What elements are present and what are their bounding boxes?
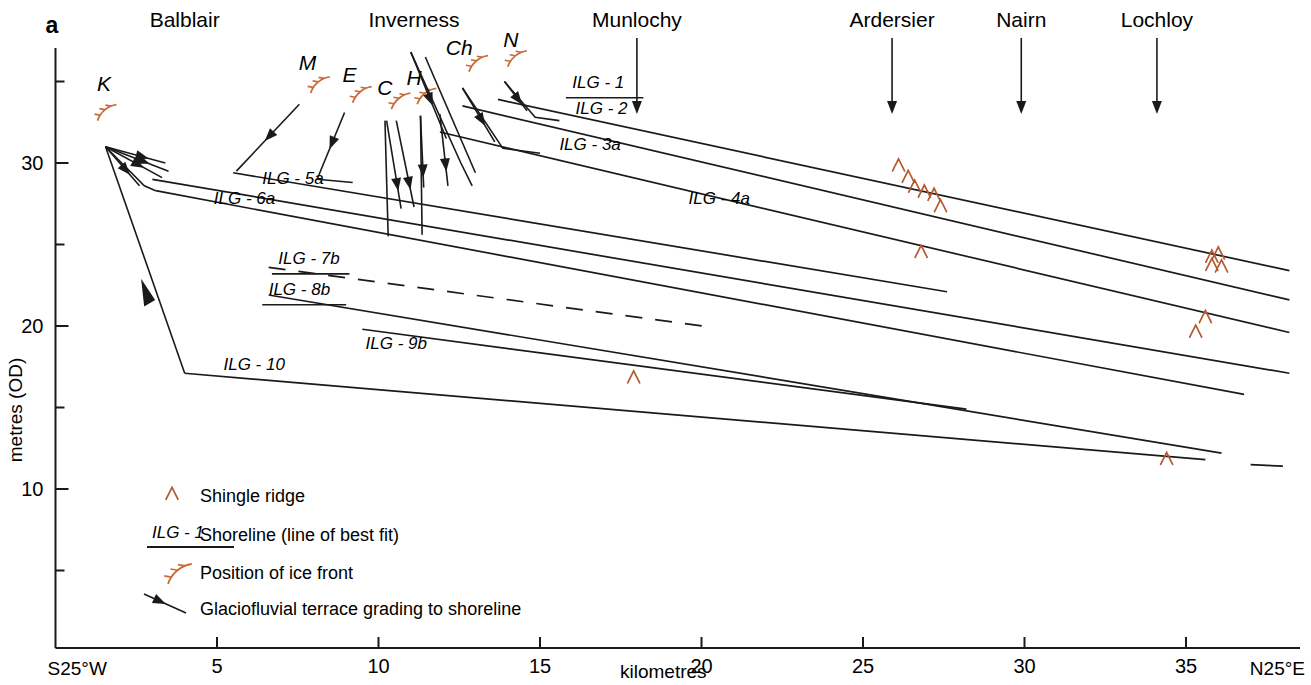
legend-ice-front-label: Position of ice front (200, 563, 353, 583)
ice-front-label-c: C (377, 76, 393, 99)
x-axis-start-label: S25°W (48, 658, 107, 679)
ice-front-barb (414, 98, 420, 99)
y-tick-label: 30 (21, 152, 43, 174)
ice-front-barb (178, 565, 185, 566)
legend-shingle-ridge-icon (166, 487, 178, 499)
arrow-head (887, 101, 897, 114)
chevron (935, 200, 947, 212)
ice-front-e (350, 87, 372, 103)
ice-front-barb (94, 114, 100, 115)
terrace-k-2 (106, 147, 169, 171)
terrace-line (106, 147, 169, 171)
arrow-head (632, 101, 642, 114)
shingle-ridge-marker (628, 371, 640, 383)
y-tick-label: 20 (21, 315, 43, 337)
legend-shoreline-label: Shoreline (line of best fit) (200, 525, 399, 545)
ice-front-barb (466, 65, 472, 66)
ice-front-label-k: K (97, 72, 112, 95)
shoreline-ilg4a (152, 179, 1289, 373)
y-tick-label: 10 (21, 478, 43, 500)
ice-front-barb (350, 96, 356, 97)
arrow-head (1016, 101, 1026, 114)
shingle-ridge-marker (902, 170, 914, 182)
terrace-inv-3 (425, 57, 475, 173)
location-label-inverness: Inverness (369, 8, 460, 31)
location-arrow-nairn (1016, 38, 1026, 114)
terrace-arrowhead (418, 164, 428, 177)
terrace-n-2 (504, 82, 559, 121)
x-tick-label: 25 (852, 655, 874, 677)
ice-front-arc (508, 51, 527, 67)
panel-label: a (46, 12, 59, 38)
ice-front-barb (388, 103, 394, 104)
y-axis-title: metres (OD) (5, 358, 26, 463)
location-arrow-lochloy (1152, 38, 1162, 114)
x-tick-label: 30 (1013, 655, 1035, 677)
legend-shoreline-sample-label: ILG - 1 (152, 523, 204, 542)
shoreline-label-6: ILG - 7b (278, 249, 339, 268)
ice-front-barb (319, 77, 325, 78)
ice-front-barb (171, 569, 178, 570)
x-tick-label: 5 (211, 655, 222, 677)
ice-front-label-e: E (342, 63, 357, 86)
shoreline-label-0: ILG - 1 (572, 73, 624, 92)
shoreline-label-7: ILG - 8b (269, 280, 330, 299)
shoreline-ilg1 (498, 99, 1289, 270)
legend-terrace-arrow-icon (144, 594, 186, 613)
ice-front-barb (105, 105, 111, 106)
chevron (902, 170, 914, 182)
terrace-arrowhead (440, 158, 450, 171)
terrace-h-1 (418, 116, 428, 188)
ice-front-arc (168, 564, 192, 584)
legend-terrace-arrow-label: Glaciofluvial terrace grading to shoreli… (200, 599, 521, 619)
shoreline-ilg10-tail (1251, 465, 1283, 467)
ice-front-barb (308, 86, 314, 87)
ice-front-m (308, 77, 330, 93)
shoreline-label-1: ILG - 2 (576, 99, 629, 118)
shingle-ridge-marker (1161, 452, 1173, 464)
x-tick-label: 15 (529, 655, 551, 677)
ice-front-arc (391, 93, 410, 109)
chevron (628, 371, 640, 383)
chevron (1161, 452, 1173, 464)
ice-front-barb (399, 94, 405, 95)
shingle-ridge-marker (1190, 325, 1202, 337)
shoreline-diagram: 3020105101520253035S25°WN25°Ekilometresm… (0, 0, 1311, 685)
ice-front-barb (393, 97, 399, 98)
x-tick-label: 35 (1175, 655, 1197, 677)
location-label-munlochy: Munlochy (592, 8, 682, 31)
terrace-m (236, 104, 299, 171)
chevron (166, 487, 178, 499)
ice-front-barb (355, 91, 361, 92)
ice-front-barb (477, 56, 483, 57)
terrace-arrowhead (329, 135, 339, 149)
legend (144, 487, 234, 613)
ice-front-label-h: H (406, 66, 422, 89)
shoreline-ilg7b (269, 267, 715, 327)
terrace-k-long (106, 147, 185, 374)
terrace-arrowhead (152, 594, 166, 604)
terrace-e (317, 112, 344, 179)
figure-panel: 3020105101520253035S25°WN25°Ekilometresm… (0, 0, 1311, 685)
terrace-arrowhead (391, 177, 401, 191)
shoreline-ilg8b (269, 295, 1222, 453)
spacer (753, 333, 1283, 405)
legend-shingle-ridge-label: Shingle ridge (200, 486, 305, 506)
ice-front-label-m: M (299, 51, 317, 74)
ice-front-barb (164, 576, 171, 577)
ice-front-arc (353, 87, 372, 103)
shoreline-label-8: ILG - 9b (366, 334, 427, 353)
shoreline-label-5: ILG - 6a (214, 189, 275, 208)
shoreline-label-4: ILG - 5a (262, 169, 323, 188)
location-label-balblair: Balblair (150, 8, 220, 31)
shingle-ridge-marker (893, 159, 905, 171)
ice-front-label-n: N (503, 28, 519, 51)
ice-front-arc (311, 77, 330, 93)
location-arrow-munlochy (632, 38, 642, 114)
ice-front-label-ch: Ch (446, 36, 473, 59)
shoreline-label-3: ILG - 4a (689, 189, 750, 208)
chevron (1190, 325, 1202, 337)
ice-front-barb (361, 87, 367, 88)
shoreline-ilg3a (440, 132, 1289, 332)
ice-front-barb (99, 109, 105, 110)
